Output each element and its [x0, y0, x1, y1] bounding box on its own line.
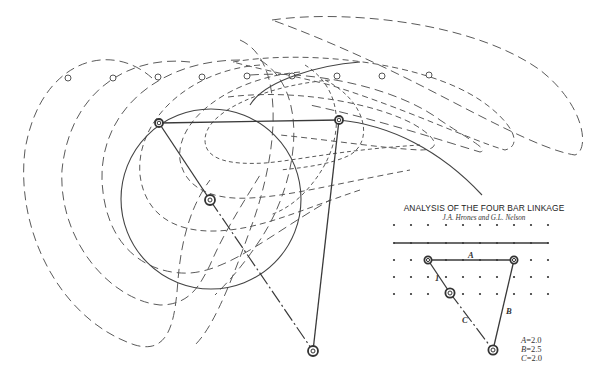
grid-dot	[410, 259, 412, 261]
tracer-point	[426, 72, 432, 78]
grid-dot	[393, 276, 395, 278]
joint-crank-pivot	[205, 195, 215, 205]
grid-dot	[445, 276, 447, 278]
crank-link-1	[159, 123, 210, 200]
coupler-curve-13	[250, 74, 483, 152]
grid-dot	[393, 224, 395, 226]
key-joint-top-right	[510, 256, 517, 263]
coupler-curve-10	[280, 80, 364, 170]
label-link-a: A	[467, 250, 474, 260]
main-linkage	[155, 116, 343, 356]
joint-coupler-left	[155, 119, 163, 127]
coupler-curve-4	[140, 65, 360, 231]
grid-dot	[410, 276, 412, 278]
grid-dot	[393, 293, 395, 295]
joint-coupler-right	[335, 116, 343, 124]
grid-dot	[427, 224, 429, 226]
tracer-point	[199, 74, 205, 80]
upper-loop-arc	[250, 62, 360, 105]
grid-dot	[479, 293, 481, 295]
title-block: ANALYSIS OF THE FOUR BAR LINKAGE J.A. Hr…	[404, 203, 565, 222]
grid-dot	[479, 224, 481, 226]
grid-dot	[547, 276, 549, 278]
coupler-curves	[24, 17, 583, 347]
grid-dot	[496, 224, 498, 226]
coupler-curve-2	[62, 61, 260, 305]
diagram-title: ANALYSIS OF THE FOUR BAR LINKAGE	[404, 203, 565, 213]
grid-dot	[479, 276, 481, 278]
key-joint-top-left	[424, 256, 431, 263]
joint-ground-pivot	[308, 346, 318, 356]
grid-dot	[410, 293, 412, 295]
coupler-curve-3	[102, 60, 330, 273]
grid-dot	[513, 293, 515, 295]
key-diagram-linkage: A B C 1	[424, 250, 517, 355]
grid-dot	[513, 224, 515, 226]
grid-dot	[547, 259, 549, 261]
grid-dot	[393, 259, 395, 261]
tracer-points	[65, 72, 432, 81]
dimension-legend: A=2.0 B=2.5 C=2.0	[520, 335, 542, 363]
coupler-curve-5	[180, 72, 410, 198]
coupler-curve-1	[24, 60, 210, 347]
four-bar-linkage-diagram: ANALYSIS OF THE FOUR BAR LINKAGE J.A. Hr…	[0, 0, 589, 373]
grid-dot	[547, 293, 549, 295]
tracer-point	[65, 75, 71, 81]
label-link-c: C	[462, 315, 468, 325]
grid-dot	[496, 293, 498, 295]
tracer-point	[244, 73, 250, 79]
coupler-link-a	[159, 120, 339, 123]
tracer-point	[379, 73, 385, 79]
key-joint-crank	[445, 288, 454, 297]
coupler-curve-11	[272, 17, 583, 155]
grid-dot	[410, 224, 412, 226]
grid-dot	[530, 259, 532, 261]
grid-dot	[427, 293, 429, 295]
tracer-point	[110, 75, 116, 81]
rocker-link-b	[313, 120, 339, 351]
coupler-curve-7	[195, 40, 273, 345]
grid-dot	[427, 276, 429, 278]
grid-dot	[462, 293, 464, 295]
tracer-point	[334, 73, 340, 79]
grid-dot	[462, 276, 464, 278]
grid-dot	[513, 276, 515, 278]
diagram-authors: J.A. Hrones and G.L. Nelson	[443, 214, 526, 222]
key-link-c	[450, 293, 493, 350]
label-link-b: B	[505, 306, 512, 316]
grid-dot	[462, 224, 464, 226]
grid-dot	[530, 293, 532, 295]
key-joint-bottom	[488, 345, 497, 354]
grid-dot	[530, 276, 532, 278]
tracer-point	[155, 74, 161, 80]
key-link-b	[493, 260, 514, 350]
label-crank-1: 1	[435, 273, 439, 283]
grid-dot	[445, 224, 447, 226]
grid-dot	[530, 224, 532, 226]
grid-dot	[496, 276, 498, 278]
grid-dot	[547, 224, 549, 226]
legend-c: C=2.0	[521, 353, 542, 363]
